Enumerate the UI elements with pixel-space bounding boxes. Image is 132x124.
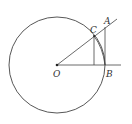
point-c [93,35,95,37]
arc-cb [94,36,105,65]
center-point [56,64,59,67]
label-a: A [103,16,111,26]
label-c: C [90,25,97,35]
unit-circle-diagram: O A B C [0,0,132,124]
label-o: O [53,69,61,79]
label-b: B [105,69,113,79]
